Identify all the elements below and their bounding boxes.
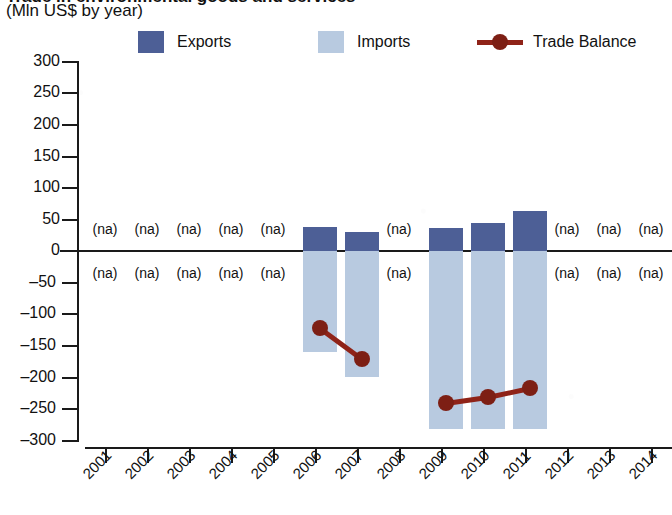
bar-exports-2007[interactable] — [345, 232, 379, 251]
chart-root: Trade in environmental goods and service… — [0, 0, 672, 515]
na-label-above-2014: (na) — [630, 221, 672, 237]
x-axis-label-2011: 2011 — [499, 447, 534, 482]
y-tick-neg50 — [62, 282, 79, 284]
x-axis-label-2004: 2004 — [205, 446, 241, 482]
x-axis-label-2010: 2010 — [457, 446, 493, 482]
y-tick-150 — [62, 156, 79, 158]
x-axis-label-2014: 2014 — [625, 446, 661, 482]
na-label-above-2012: (na) — [546, 221, 588, 237]
na-label-below-2004: (na) — [210, 265, 252, 281]
y-axis-label-50: 50 — [8, 211, 60, 227]
y-tick-neg300 — [62, 440, 79, 442]
na-label-below-2012: (na) — [546, 265, 588, 281]
na-label-above-2001: (na) — [84, 221, 126, 237]
na-label-above-2013: (na) — [588, 221, 630, 237]
trade-balance-point-2010[interactable] — [480, 389, 496, 405]
na-label-above-2005: (na) — [252, 221, 294, 237]
bar-exports-2010[interactable] — [471, 223, 505, 251]
x-axis-label-2003: 2003 — [163, 446, 199, 482]
y-tick-neg150 — [62, 345, 79, 347]
y-tick-50 — [62, 219, 79, 221]
y-tick-200 — [62, 124, 79, 126]
y-tick-0 — [62, 250, 79, 252]
x-axis-label-2007: 2007 — [331, 446, 367, 482]
na-label-below-2008: (na) — [378, 265, 420, 281]
na-label-below-2002: (na) — [126, 265, 168, 281]
y-axis-label-neg100: –100 — [4, 305, 56, 321]
y-axis-label-100: 100 — [8, 179, 60, 195]
bar-imports-2011[interactable] — [513, 251, 547, 429]
x-axis-label-2006: 2006 — [289, 446, 325, 482]
plot-area: 300 250 200 150 100 50 0 –50 –100 –150 –… — [0, 0, 672, 515]
y-axis-label-neg300: –300 — [4, 432, 56, 448]
na-label-below-2005: (na) — [252, 265, 294, 281]
y-axis-label-neg150: –150 — [4, 337, 56, 353]
trade-balance-point-2009[interactable] — [438, 395, 454, 411]
trade-balance-point-2007[interactable] — [354, 351, 370, 367]
y-tick-100 — [62, 187, 79, 189]
bar-exports-2006[interactable] — [303, 227, 337, 251]
na-label-above-2008: (na) — [378, 221, 420, 237]
bar-exports-2009[interactable] — [429, 228, 463, 251]
na-label-below-2003: (na) — [168, 265, 210, 281]
y-tick-300 — [62, 61, 79, 63]
x-axis-label-2008: 2008 — [373, 446, 409, 482]
x-axis-label-2013: 2013 — [583, 446, 619, 482]
y-axis-label-200: 200 — [8, 116, 60, 132]
trade-balance-point-2011[interactable] — [522, 380, 538, 396]
y-tick-neg200 — [62, 377, 79, 379]
y-axis-label-neg50: –50 — [4, 274, 56, 290]
na-label-above-2004: (na) — [210, 221, 252, 237]
na-label-below-2014: (na) — [630, 265, 672, 281]
y-axis-label-250: 250 — [8, 84, 60, 100]
trade-balance-point-2006[interactable] — [312, 320, 328, 336]
y-axis-label-150: 150 — [8, 148, 60, 164]
na-label-below-2001: (na) — [84, 265, 126, 281]
na-label-above-2003: (na) — [168, 221, 210, 237]
x-axis-label-2002: 2002 — [121, 446, 157, 482]
y-axis-label-neg200: –200 — [4, 369, 56, 385]
bar-exports-2011[interactable] — [513, 211, 547, 251]
x-axis-label-2001: 2001 — [79, 446, 115, 482]
na-label-above-2002: (na) — [126, 221, 168, 237]
y-axis-label-300: 300 — [8, 53, 60, 69]
y-axis-label-neg250: –250 — [4, 400, 56, 416]
y-tick-neg100 — [62, 313, 79, 315]
x-axis-label-2005: 2005 — [247, 446, 283, 482]
y-axis-label-0: 0 — [8, 242, 60, 258]
y-tick-neg250 — [62, 408, 79, 410]
x-axis-line — [85, 447, 672, 449]
y-tick-250 — [62, 92, 79, 94]
na-label-below-2013: (na) — [588, 265, 630, 281]
x-axis-label-2009: 2009 — [415, 446, 451, 482]
x-axis-label-2012: 2012 — [541, 446, 577, 482]
